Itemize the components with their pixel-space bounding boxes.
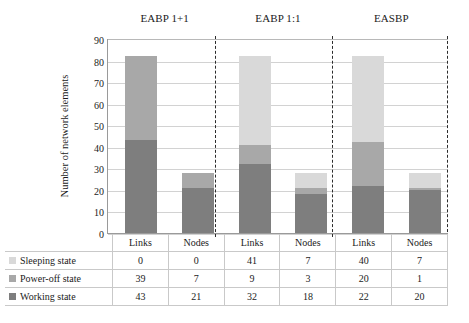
stacked-bar-chart-figure: EABP 1+1 EABP 1:1 EASBP Number of networ… — [0, 0, 469, 323]
cell-sleeping-nodes-3: 7 — [392, 252, 448, 270]
cell-poweroff-nodes-3: 1 — [392, 270, 448, 288]
legend-label-sleeping: Sleeping state — [20, 256, 76, 267]
gridline-50 — [108, 126, 448, 127]
column-header-nodes-1: Nodes — [168, 234, 224, 252]
table-row-power-off-state: Power-off state 39 7 9 3 20 1 — [5, 270, 448, 288]
y-tick-label-60: 60 — [94, 99, 104, 110]
segment-power-off-state-1 — [182, 173, 214, 188]
bar-EABP11-nodes — [295, 173, 327, 233]
segment-working-state-3 — [295, 194, 327, 233]
bar-EABP11-nodes — [182, 173, 214, 233]
legend-cell-poweroff: Power-off state — [5, 270, 113, 288]
bar-EASBP-links — [352, 56, 384, 233]
column-header-links-1: Links — [113, 234, 169, 252]
segment-working-state-1 — [182, 188, 214, 233]
table-header-row: Links Nodes Links Nodes Links Nodes — [5, 234, 448, 252]
bar-EASBP-nodes — [409, 173, 441, 233]
gridline-60 — [108, 105, 448, 106]
plot-area: 9080706050403020100 — [108, 39, 448, 233]
legend-label-working: Working state — [20, 292, 76, 303]
table-row-sleeping-state: Sleeping state 0 0 41 7 40 7 — [5, 252, 448, 270]
data-table: Links Nodes Links Nodes Links Nodes Slee… — [5, 234, 448, 306]
group-separator-1 — [215, 36, 216, 237]
segment-power-off-state-0 — [125, 56, 157, 140]
cell-poweroff-links-1: 39 — [113, 270, 169, 288]
group-separator-2 — [332, 36, 333, 237]
cell-poweroff-links-2: 9 — [224, 270, 280, 288]
cell-working-links-1: 43 — [113, 288, 169, 306]
cell-sleeping-links-3: 40 — [336, 252, 392, 270]
gridline-70 — [108, 83, 448, 84]
y-tick-label-10: 10 — [94, 207, 104, 218]
cell-working-nodes-3: 20 — [392, 288, 448, 306]
segment-working-state-5 — [409, 190, 441, 233]
group-header-eabp-1plus1: EABP 1+1 — [108, 9, 221, 27]
cell-working-nodes-2: 18 — [280, 288, 336, 306]
segment-power-off-state-4 — [352, 142, 384, 185]
group-separator-3 — [447, 36, 448, 237]
legend-header-cell — [5, 234, 113, 252]
y-tick-label-80: 80 — [94, 56, 104, 67]
cell-sleeping-links-1: 0 — [113, 252, 169, 270]
cell-working-nodes-1: 21 — [168, 288, 224, 306]
y-axis-title: Number of network elements — [58, 39, 72, 233]
cell-poweroff-nodes-2: 3 — [280, 270, 336, 288]
poweroff-swatch-icon — [9, 275, 16, 282]
segment-sleeping-state-3 — [295, 173, 327, 188]
y-tick-label-20: 20 — [94, 185, 104, 196]
segment-working-state-0 — [125, 140, 157, 233]
gridline-20 — [108, 191, 448, 192]
working-swatch-icon — [9, 293, 16, 300]
y-tick-label-50: 50 — [94, 121, 104, 132]
cell-poweroff-links-3: 20 — [336, 270, 392, 288]
y-tick-label-40: 40 — [94, 142, 104, 153]
y-tick-label-30: 30 — [94, 164, 104, 175]
cell-sleeping-nodes-1: 0 — [168, 252, 224, 270]
segment-power-off-state-2 — [239, 145, 271, 164]
cell-working-links-2: 32 — [224, 288, 280, 306]
segment-sleeping-state-5 — [409, 173, 441, 188]
legend-label-poweroff: Power-off state — [20, 274, 81, 285]
column-header-nodes-2: Nodes — [280, 234, 336, 252]
cell-sleeping-nodes-2: 7 — [280, 252, 336, 270]
group-header-eabp-1to1: EABP 1:1 — [221, 9, 334, 27]
column-header-links-3: Links — [336, 234, 392, 252]
column-header-nodes-3: Nodes — [392, 234, 448, 252]
sleeping-swatch-icon — [9, 257, 16, 264]
data-table-wrapper: Links Nodes Links Nodes Links Nodes Slee… — [5, 234, 448, 306]
y-tick-label-90: 90 — [94, 35, 104, 46]
group-header-row: EABP 1+1 EABP 1:1 EASBP — [108, 9, 448, 27]
segment-sleeping-state-2 — [239, 56, 271, 144]
group-header-easbp: EASBP — [335, 9, 448, 27]
segment-working-state-2 — [239, 164, 271, 233]
bar-EABP11-links — [239, 56, 271, 233]
cell-sleeping-links-2: 41 — [224, 252, 280, 270]
cell-working-links-3: 22 — [336, 288, 392, 306]
gridline-30 — [108, 169, 448, 170]
y-tick-label-70: 70 — [94, 78, 104, 89]
legend-cell-sleeping: Sleeping state — [5, 252, 113, 270]
segment-working-state-4 — [352, 186, 384, 233]
legend-cell-working: Working state — [5, 288, 113, 306]
column-header-links-2: Links — [224, 234, 280, 252]
cell-poweroff-nodes-1: 7 — [168, 270, 224, 288]
bar-EABP11-links — [125, 56, 157, 233]
segment-sleeping-state-4 — [352, 56, 384, 142]
gridline-10 — [108, 212, 448, 213]
gridline-80 — [108, 62, 448, 63]
table-row-working-state: Working state 43 21 32 18 22 20 — [5, 288, 448, 306]
gridline-40 — [108, 148, 448, 149]
